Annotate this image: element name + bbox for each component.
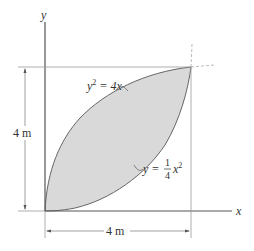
width-dimension-label: 4 m [106, 224, 125, 238]
area-between-curves-diagram: y x 4 m 4 m y2 = 4x y = 1 4 x2 [0, 0, 254, 251]
lower-curve-equation-rhs: x2 [172, 161, 182, 176]
lower-curve-fraction-den: 4 [165, 170, 170, 181]
arrow-right-icon [185, 230, 190, 233]
lower-curve-equation-lhs: y = [142, 162, 159, 176]
upper-curve-equation: y2 = 4x [86, 78, 122, 93]
top-dashed-extension [191, 65, 215, 67]
arrow-left-icon [46, 230, 51, 233]
height-dimension-label: 4 m [13, 126, 32, 140]
lower-curve-fraction-num: 1 [165, 157, 170, 168]
y-axis-label: y [40, 8, 47, 22]
x-axis-label: x [235, 204, 242, 218]
arrow-down-icon [24, 205, 27, 210]
arrow-up-icon [24, 68, 27, 73]
right-dashed-extension [191, 44, 192, 67]
